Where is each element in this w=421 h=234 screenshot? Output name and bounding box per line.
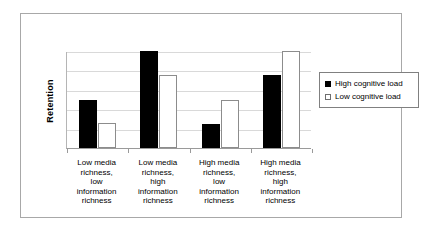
filled-black-square-icon (325, 81, 331, 87)
legend-item-label: High cognitive load (335, 79, 403, 88)
x-axis-category-label-line: richness, (127, 168, 188, 178)
y-axis-title: Retention (43, 52, 57, 149)
bar-low-cognitive-load (282, 51, 300, 148)
x-axis-category-label-line: richness (127, 196, 188, 206)
bar-group (67, 52, 128, 148)
bar-group (251, 52, 312, 148)
bar-high-cognitive-load (79, 100, 97, 149)
empty-white-square-icon (325, 94, 331, 100)
x-axis-category-label-line: richness (189, 196, 250, 206)
x-axis-tick (190, 149, 191, 153)
bar-high-cognitive-load (263, 75, 281, 148)
bar-low-cognitive-load (159, 75, 177, 148)
x-axis-tick (67, 149, 68, 153)
x-axis-category-label-line: high (250, 177, 311, 187)
legend-item: Low cognitive load (325, 90, 414, 103)
bar-low-cognitive-load (98, 123, 116, 148)
legend-item-label: Low cognitive load (335, 92, 401, 101)
x-axis-category-label-line: high (127, 177, 188, 187)
chart-figure-frame: Retention Low mediarichness,lowinformati… (20, 13, 402, 218)
x-axis-category-label-line: information (127, 187, 188, 197)
x-axis-tick (312, 149, 313, 153)
bar-group (128, 52, 189, 148)
bar-low-cognitive-load (221, 100, 239, 149)
x-axis-category-label-line: richness (250, 196, 311, 206)
x-axis-category-label-line: richness, (66, 168, 127, 178)
x-axis-category-label-line: richness, (250, 168, 311, 178)
x-axis-category-label: High mediarichness,highinformationrichne… (250, 158, 311, 220)
x-axis-category-label-line: low (189, 177, 250, 187)
x-axis-category-label-line: richness (66, 196, 127, 206)
x-axis-category-label-line: low (66, 177, 127, 187)
x-axis-category-labels: Low mediarichness,lowinformationrichness… (66, 158, 311, 220)
x-axis-category-label: Low mediarichness,lowinformationrichness (66, 158, 127, 220)
bar-high-cognitive-load (140, 51, 158, 148)
x-axis-tick (251, 149, 252, 153)
y-axis-title-label: Retention (45, 79, 55, 122)
bar-high-cognitive-load (202, 124, 220, 148)
chart-legend: High cognitive loadLow cognitive load (319, 72, 419, 108)
x-axis-category-label-line: information (250, 187, 311, 197)
x-axis-category-label: High mediarichness,lowinformationrichnes… (189, 158, 250, 220)
legend-item: High cognitive load (325, 77, 414, 90)
x-axis-category-label: Low mediarichness,highinformationrichnes… (127, 158, 188, 220)
x-axis-category-label-line: information (189, 187, 250, 197)
plot-area (66, 52, 311, 149)
x-axis-category-label-line: Low media (127, 158, 188, 168)
x-axis-category-label-line: Low media (66, 158, 127, 168)
bar-group (190, 52, 251, 148)
x-axis-tick (128, 149, 129, 153)
x-axis-category-label-line: High media (189, 158, 250, 168)
x-axis-category-label-line: information (66, 187, 127, 197)
x-axis-category-label-line: High media (250, 158, 311, 168)
x-axis-category-label-line: richness, (189, 168, 250, 178)
